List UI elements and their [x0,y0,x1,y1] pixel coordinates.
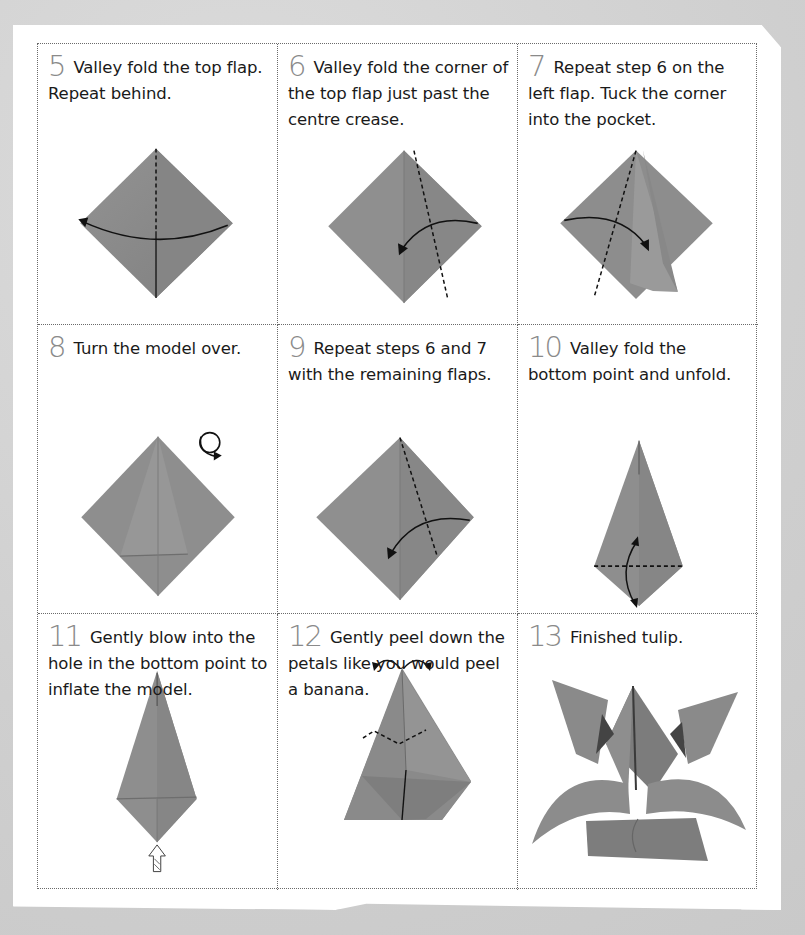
step-text: Valley fold the top flap. Repeat behind. [48,58,262,103]
step-13: 13Finished tulip. [518,614,758,890]
step-number: 10 [528,330,561,364]
step-caption: 12Gently peel down the petals like you w… [288,623,509,703]
steps-grid: 5Valley fold the top flap. Repeat behind… [37,43,757,889]
step-text: Valley fold the corner of the top flap j… [288,58,508,129]
step-text: Repeat steps 6 and 7 with the remaining … [288,339,491,384]
step-number: 11 [48,619,81,653]
turn-over-icon [200,433,222,461]
step-caption: 10Valley fold the bottom point and unfol… [528,334,750,388]
step-number: 6 [288,49,304,83]
step-caption: 6Valley fold the corner of the top flap … [288,53,509,133]
step-5: 5Valley fold the top flap. Repeat behind… [38,44,278,325]
step-number: 7 [528,49,544,83]
step-text: Repeat step 6 on the left flap. Tuck the… [528,58,726,129]
step-text: Turn the model over. [73,339,241,358]
step-caption: 5Valley fold the top flap. Repeat behind… [48,53,269,107]
step-caption: 9Repeat steps 6 and 7 with the remaining… [288,334,509,388]
step-10: 10Valley fold the bottom point and unfol… [518,325,758,614]
step-caption: 11Gently blow into the hole in the botto… [48,623,269,703]
step-number: 5 [48,49,64,83]
step-12: 12Gently peel down the petals like you w… [278,614,518,890]
step-8-diagram [38,325,278,613]
step-9: 9Repeat steps 6 and 7 with the remaining… [278,325,518,614]
step-13-diagram [518,614,758,890]
step-number: 13 [528,619,561,653]
step-text: Finished tulip. [570,628,683,647]
step-caption: 8Turn the model over. [48,334,269,362]
step-number: 12 [288,619,321,653]
step-caption: 7Repeat step 6 on the left flap. Tuck th… [528,53,750,133]
step-caption: 13Finished tulip. [528,623,750,651]
step-6: 6Valley fold the corner of the top flap … [278,44,518,325]
step-number: 9 [288,330,304,364]
step-number: 8 [48,330,64,364]
step-7: 7Repeat step 6 on the left flap. Tuck th… [518,44,758,325]
step-11: 11Gently blow into the hole in the botto… [38,614,278,890]
step-8: 8Turn the model over. [38,325,278,614]
inflate-arrow-icon [149,845,166,872]
